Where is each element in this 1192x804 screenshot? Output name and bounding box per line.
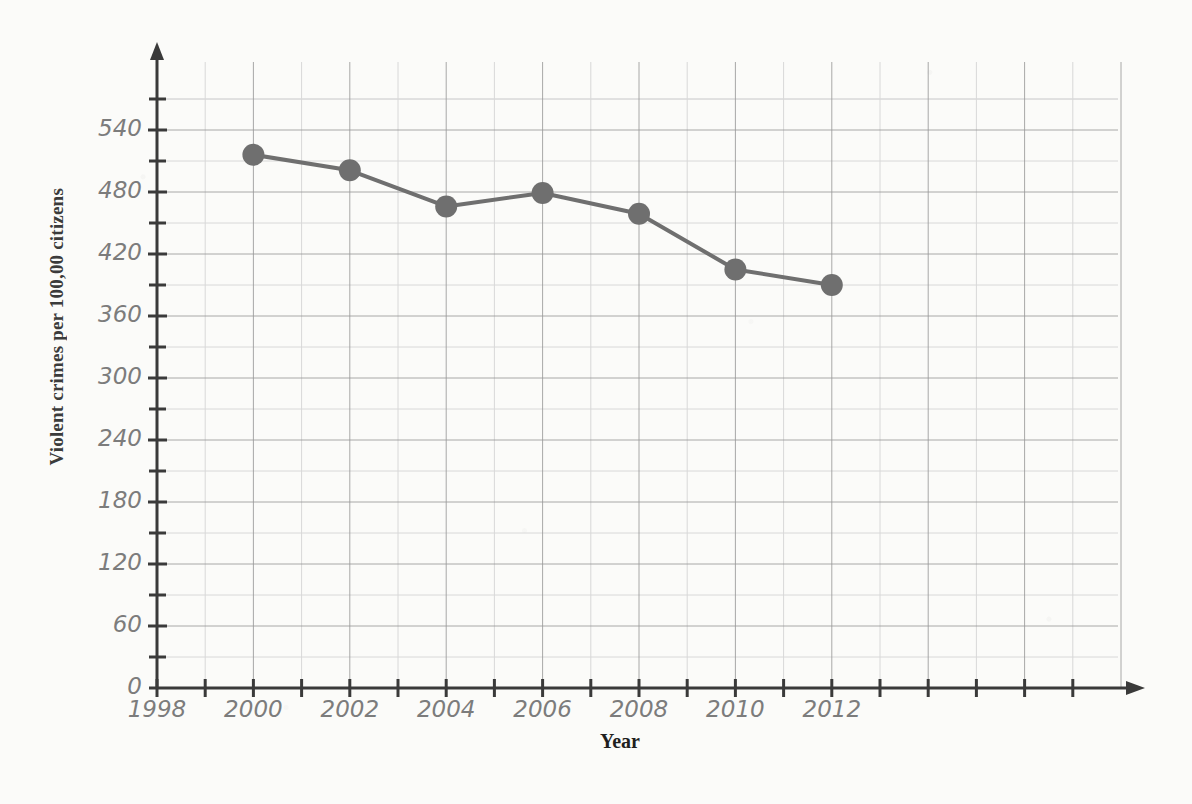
x-tick-label-2000: 2000 (208, 696, 298, 722)
data-point-2006 (532, 182, 554, 204)
x-axis-title: Year (540, 730, 700, 753)
x-tick-label-2006: 2006 (498, 696, 588, 722)
minor-gridlines (157, 62, 1118, 688)
axis-lines (149, 42, 1145, 695)
y-tick-label-360: 360 (80, 301, 142, 327)
x-tick-label-2012: 2012 (787, 696, 877, 722)
x-tick-label-2002: 2002 (305, 696, 395, 722)
chart-page: 0601201802403003604204805401998200020022… (0, 0, 1192, 804)
axis-ticks (148, 99, 1073, 697)
data-point-2012 (821, 274, 843, 296)
y-tick-label-480: 480 (80, 177, 142, 203)
y-tick-label-240: 240 (80, 425, 142, 451)
data-point-2000 (242, 144, 264, 166)
x-tick-label-2010: 2010 (690, 696, 780, 722)
x-tick-label-2008: 2008 (594, 696, 684, 722)
data-point-2002 (339, 159, 361, 181)
y-tick-label-540: 540 (80, 115, 142, 141)
y-tick-label-60: 60 (80, 611, 142, 637)
y-tick-label-420: 420 (80, 239, 142, 265)
y-axis-title: Violent crimes per 100,00 citizens (46, 188, 74, 466)
data-point-2004 (435, 195, 457, 217)
x-tick-label-1998: 1998 (112, 696, 202, 722)
line-chart-plot (0, 0, 1192, 804)
y-tick-label-120: 120 (80, 549, 142, 575)
data-point-2008 (628, 203, 650, 225)
y-tick-label-180: 180 (80, 487, 142, 513)
data-point-2010 (724, 259, 746, 281)
y-tick-label-300: 300 (80, 363, 142, 389)
x-tick-label-2004: 2004 (401, 696, 491, 722)
